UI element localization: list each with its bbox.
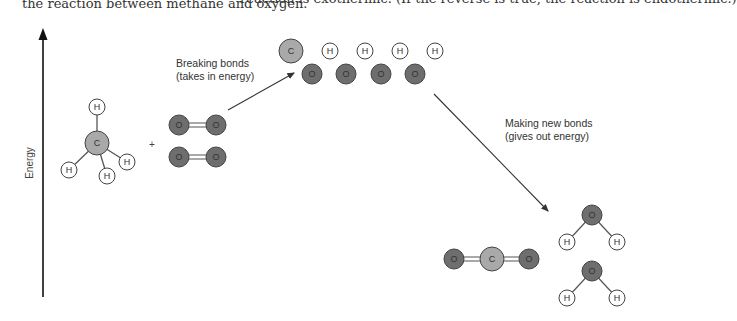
- svg-text:H: H: [397, 46, 404, 56]
- hydrogen-atom: H: [609, 234, 625, 250]
- svg-text:H: H: [327, 46, 334, 56]
- hydrogen-atom: H: [99, 168, 115, 184]
- hydrogen-atom: H: [559, 234, 575, 250]
- oxygen-atom: O: [169, 147, 189, 167]
- carbon-atom: C: [85, 131, 109, 155]
- hydrogen-atom: H: [427, 43, 443, 59]
- oxygen-atom: O: [206, 147, 226, 167]
- svg-text:H: H: [614, 293, 621, 303]
- arrow-down-icon: [434, 94, 548, 211]
- oxygen-molecule: O O: [169, 115, 226, 135]
- oxygen-atom: O: [582, 261, 602, 281]
- svg-text:O: O: [525, 254, 532, 264]
- breaking-bonds-sublabel: (takes in energy): [176, 70, 254, 82]
- oxygen-atom: O: [302, 64, 322, 84]
- svg-text:H: H: [564, 237, 571, 247]
- svg-text:C: C: [94, 138, 101, 148]
- svg-text:O: O: [588, 266, 595, 276]
- methane-molecule: C H H H H: [61, 99, 135, 184]
- carbon-atom: C: [279, 39, 303, 63]
- svg-text:H: H: [94, 102, 101, 112]
- oxygen-atom: O: [519, 249, 539, 269]
- making-bonds-label: Making new bonds: [505, 117, 593, 129]
- svg-text:O: O: [450, 254, 457, 264]
- svg-text:O: O: [588, 210, 595, 220]
- hydrogen-atom: H: [61, 162, 77, 178]
- energy-axis: Energy: [24, 28, 48, 297]
- hydrogen-atom: H: [609, 290, 625, 306]
- plus-sign: +: [149, 139, 155, 150]
- hydrogen-atom: H: [119, 154, 135, 170]
- separated-atoms: C H H H H O O O O: [279, 39, 443, 84]
- hydrogen-atom: H: [392, 43, 408, 59]
- hydrogen-atom: H: [559, 290, 575, 306]
- svg-text:H: H: [104, 171, 111, 181]
- svg-text:O: O: [308, 69, 315, 79]
- water-molecule: O H H: [559, 261, 625, 306]
- svg-text:H: H: [564, 293, 571, 303]
- oxygen-atom: O: [582, 205, 602, 225]
- svg-text:H: H: [614, 237, 621, 247]
- svg-text:O: O: [411, 69, 418, 79]
- svg-text:O: O: [377, 69, 384, 79]
- svg-text:O: O: [342, 69, 349, 79]
- water-molecule: O H H: [559, 205, 625, 250]
- oxygen-atom: O: [405, 64, 425, 84]
- hydrogen-atom: H: [89, 99, 105, 115]
- breaking-bonds-label: Breaking bonds: [176, 57, 249, 69]
- axis-arrow-icon: [39, 28, 48, 40]
- svg-text:H: H: [124, 157, 131, 167]
- svg-text:O: O: [212, 152, 219, 162]
- svg-text:C: C: [288, 46, 295, 56]
- oxygen-atom: O: [444, 249, 464, 269]
- svg-text:C: C: [489, 254, 496, 264]
- axis-label: Energy: [24, 147, 35, 179]
- oxygen-atom: O: [206, 115, 226, 135]
- svg-text:O: O: [212, 120, 219, 130]
- svg-text:H: H: [432, 46, 439, 56]
- svg-text:O: O: [175, 120, 182, 130]
- svg-text:O: O: [175, 152, 182, 162]
- oxygen-atom: O: [336, 64, 356, 84]
- oxygen-molecule: O O: [169, 147, 226, 167]
- hydrogen-atom: H: [357, 43, 373, 59]
- svg-text:H: H: [66, 165, 73, 175]
- oxygen-atom: O: [371, 64, 391, 84]
- making-bonds-sublabel: (gives out energy): [505, 130, 589, 142]
- carbon-atom: C: [480, 247, 504, 271]
- oxygen-atom: O: [169, 115, 189, 135]
- svg-text:H: H: [362, 46, 369, 56]
- hydrogen-atom: H: [322, 43, 338, 59]
- carbon-dioxide-molecule: O C O: [444, 247, 539, 271]
